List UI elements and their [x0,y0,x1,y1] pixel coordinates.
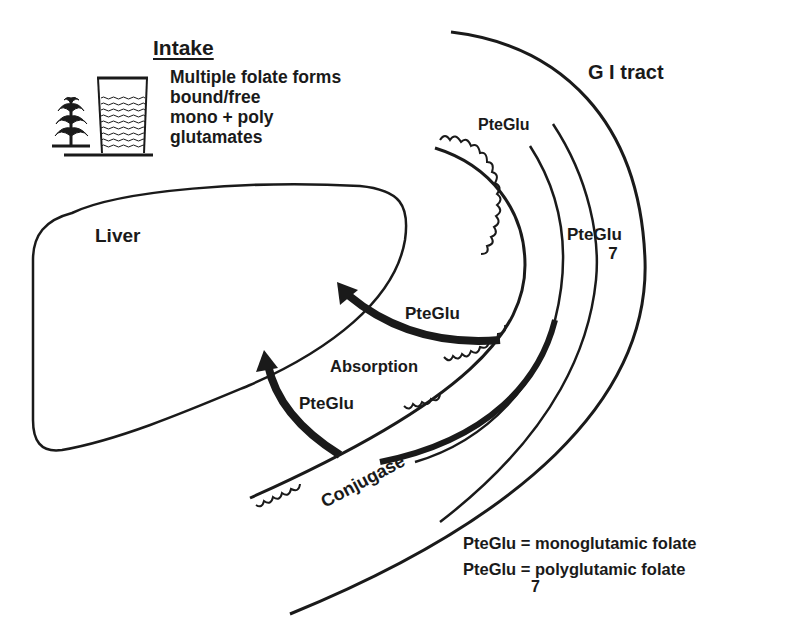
intake-line: bound/free [170,87,341,107]
legend-term: PteGlu [463,534,516,552]
intake-line: mono + poly [170,107,341,127]
villi-bottom [256,484,300,506]
legend-row-mono: PteGlu = monoglutamic folate [463,533,696,559]
legend-eq: = [521,534,531,552]
legend: PteGlu = monoglutamic folate PteGlu = po… [463,533,696,585]
legend-eq: = [521,560,531,578]
legend-subscript: 7 [531,577,540,597]
legend-term: PteGlu [463,560,516,578]
pteglu-top-label: PteGlu [478,117,530,133]
legend-row-poly: PteGlu = polyglutamic folate 7 [463,559,696,585]
pteglu-mid-label: PteGlu [405,305,460,322]
pteglu7-main: PteGlu [567,225,622,244]
intake-title: Intake [153,37,214,58]
gi-tract-label: G I tract [588,62,664,82]
gi-tract-outer-wall [290,32,645,614]
legend-definition: monoglutamic folate [535,534,696,552]
intake-line: glutamates [170,127,341,147]
absorption-label: Absorption [330,358,418,375]
pteglu7-label: PteGlu 7 [567,226,622,262]
legend-definition: polyglutamic folate [535,560,685,578]
lumen-arc-polyglutamate [440,124,597,522]
pteglu7-subscript: 7 [567,245,622,262]
liver-label: Liver [95,226,140,245]
intake-line: Multiple folate forms [170,67,341,87]
pteglu-low-label: PteGlu [299,395,354,412]
corn-plant-icon [52,97,90,146]
intake-description: Multiple folate forms bound/free mono + … [170,67,341,147]
